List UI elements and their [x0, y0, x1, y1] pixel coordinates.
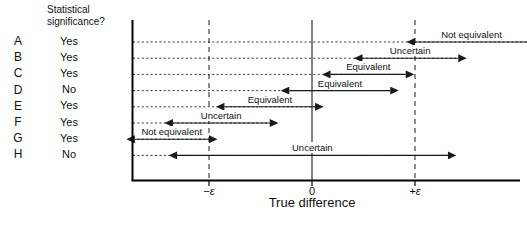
significance-value: No — [47, 83, 91, 95]
significance-value: Yes — [47, 51, 91, 63]
interval-conclusion-label: Equivalent — [247, 94, 293, 105]
significance-value: Yes — [47, 116, 91, 128]
confidence-intervals — [135, 42, 527, 155]
significance-value: Yes — [47, 132, 91, 144]
interval-conclusion-label: Equivalent — [317, 78, 363, 89]
interval-conclusion-label: Not equivalent — [140, 126, 203, 137]
significance-value: Yes — [47, 67, 91, 79]
interval-conclusion-label: Not equivalent — [440, 29, 503, 40]
interval-conclusion-label: Uncertain — [291, 142, 334, 153]
significance-value: No — [47, 148, 91, 160]
interval-conclusion-label: Uncertain — [200, 110, 243, 121]
significance-column-header: Statistical significance? — [47, 4, 105, 27]
study-label: H — [8, 147, 28, 161]
study-label: G — [8, 131, 28, 145]
study-label: E — [8, 99, 28, 113]
significance-value: Yes — [47, 35, 91, 47]
interval-conclusion-label: Equivalent — [345, 61, 391, 72]
study-label: F — [8, 115, 28, 129]
study-label: A — [8, 34, 28, 48]
significance-value: Yes — [47, 99, 91, 111]
study-label: D — [8, 83, 28, 97]
row-leader-lines — [133, 42, 527, 155]
study-label: B — [8, 50, 28, 64]
x-axis-title: True difference — [212, 195, 412, 210]
interval-conclusion-label: Uncertain — [389, 45, 432, 56]
study-label: C — [8, 66, 28, 80]
